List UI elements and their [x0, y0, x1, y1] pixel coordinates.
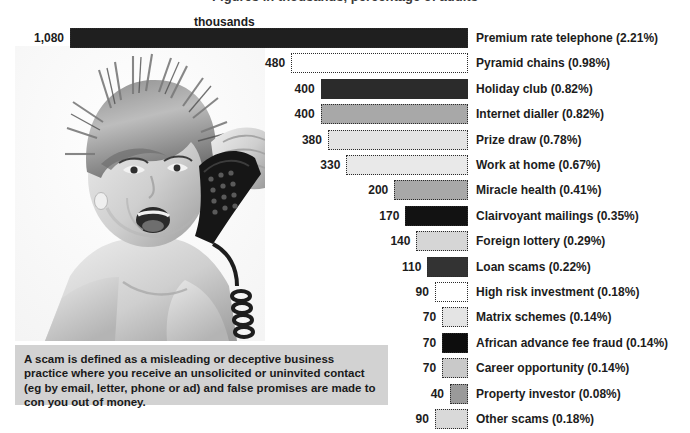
bar-segment [346, 155, 468, 175]
bar-segment [442, 333, 468, 353]
chart-bar-row: 170Clairvoyant mailings (0.35%) [0, 206, 690, 228]
bar-value-label: 90 [379, 285, 429, 299]
bar-value-label: 480 [235, 56, 285, 70]
chart-bar-row: 200Miracle health (0.41%) [0, 180, 690, 202]
bar-category-label: Work at home (0.67%) [476, 158, 600, 172]
bar-value-label: 330 [290, 158, 340, 172]
bar-value-label: 70 [386, 310, 436, 324]
chart-bar-row: 330Work at home (0.67%) [0, 155, 690, 177]
bar-segment [321, 79, 468, 99]
bar-category-label: African advance fee fraud (0.14%) [476, 336, 668, 350]
bar-category-label: Miracle health (0.41%) [476, 183, 601, 197]
scam-definition-box: A scam is defined as a misleading or dec… [15, 345, 388, 405]
page-title: Figures in thousands, percentage of adul… [0, 0, 690, 5]
bar-value-label: 40 [394, 387, 444, 401]
bar-category-label: Clairvoyant mailings (0.35%) [476, 209, 639, 223]
bar-value-label: 200 [338, 183, 388, 197]
bar-segment [442, 358, 468, 378]
bar-category-label: Foreign lottery (0.29%) [476, 234, 605, 248]
chart-bar-row: 400Internet dialler (0.82%) [0, 104, 690, 126]
bar-segment [435, 282, 468, 302]
bar-segment [450, 384, 468, 404]
bar-category-label: Other scams (0.18%) [476, 412, 594, 426]
bar-value-label: 170 [349, 209, 399, 223]
bar-segment [427, 257, 468, 277]
bar-segment [321, 104, 468, 124]
bar-segment [70, 28, 468, 48]
bar-value-label: 110 [371, 260, 421, 274]
bar-segment [442, 307, 468, 327]
bar-category-label: Loan scams (0.22%) [476, 260, 591, 274]
bar-category-label: Career opportunity (0.14%) [476, 361, 629, 375]
bar-category-label: Pyramid chains (0.98%) [476, 56, 610, 70]
bar-segment [405, 206, 468, 226]
chart-bar-row: 400Holiday club (0.82%) [0, 79, 690, 101]
bar-value-label: 400 [265, 107, 315, 121]
bar-segment [291, 53, 468, 73]
chart-bar-row: 90Other scams (0.18%) [0, 409, 690, 431]
chart-bar-row: 480Pyramid chains (0.98%) [0, 53, 690, 75]
bar-segment [435, 409, 468, 429]
bar-category-label: High risk investment (0.18%) [476, 285, 639, 299]
bar-category-label: Internet dialler (0.82%) [476, 107, 604, 121]
chart-bar-row: 70Matrix schemes (0.14%) [0, 307, 690, 329]
bar-category-label: Prize draw (0.78%) [476, 133, 581, 147]
bar-segment [394, 180, 468, 200]
bar-category-label: Holiday club (0.82%) [476, 82, 593, 96]
chart-bar-row: 1,080Premium rate telephone (2.21%) [0, 28, 690, 50]
bar-value-label: 70 [386, 336, 436, 350]
bar-value-label: 400 [265, 82, 315, 96]
bar-segment [416, 231, 468, 251]
bar-value-label: 70 [386, 361, 436, 375]
bar-category-label: Premium rate telephone (2.21%) [476, 31, 658, 45]
bar-value-label: 1,080 [14, 31, 64, 45]
chart-bar-row: 140Foreign lottery (0.29%) [0, 231, 690, 253]
chart-bar-row: 380Prize draw (0.78%) [0, 130, 690, 152]
bar-value-label: 380 [272, 133, 322, 147]
infographic-root: Figures in thousands, percentage of adul… [0, 0, 690, 433]
bar-category-label: Matrix schemes (0.14%) [476, 310, 611, 324]
chart-bar-row: 90High risk investment (0.18%) [0, 282, 690, 304]
scam-definition-text: A scam is defined as a misleading or dec… [24, 352, 379, 409]
bar-category-label: Property investor (0.08%) [476, 387, 621, 401]
bar-segment [328, 130, 468, 150]
bar-value-label: 140 [360, 234, 410, 248]
chart-bar-row: 110Loan scams (0.22%) [0, 257, 690, 279]
bar-value-label: 90 [379, 412, 429, 426]
